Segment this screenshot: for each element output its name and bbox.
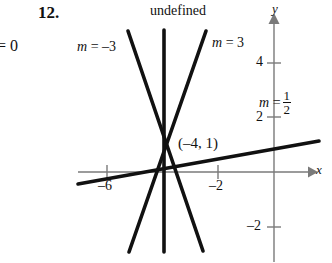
label-undefined-slope: undefined	[150, 4, 206, 18]
label-intersection-point: (–4, 1)	[178, 136, 218, 151]
y-axis-label: y	[272, 2, 278, 15]
fraction-denominator: 2	[283, 102, 292, 116]
label-slope-neg-3: m = –3	[77, 40, 116, 54]
x-tick-label-neg-2: –2	[209, 178, 223, 194]
label-slope-3: m = 3	[212, 36, 244, 50]
y-tick-label-2: 2	[256, 109, 263, 125]
fraction-numerator: 1	[283, 89, 292, 102]
y-tick-label-neg-2: –2	[247, 218, 261, 234]
slope-variable-m: m	[77, 39, 87, 54]
figure-container: 12. = 0 undefined m = –3 m = 3 m = 1 2 (…	[0, 0, 332, 263]
x-tick-label-neg-6: –6	[98, 178, 112, 194]
coordinate-graph	[0, 0, 332, 263]
fraction-one-half: 1 2	[283, 89, 292, 117]
slope-variable-m: m	[212, 35, 222, 50]
slope-equals-sign: =	[273, 96, 281, 110]
problem-number: 12.	[38, 4, 59, 21]
slope-variable-m: m	[259, 96, 269, 110]
left-edge-fragment: = 0	[0, 38, 18, 54]
x-axis-label: x	[316, 163, 322, 176]
slope-value-neg-3: = –3	[91, 39, 116, 54]
label-slope-one-half: m = 1 2	[259, 89, 291, 117]
y-tick-label-4: 4	[256, 54, 263, 70]
slope-value-3: = 3	[226, 35, 244, 50]
